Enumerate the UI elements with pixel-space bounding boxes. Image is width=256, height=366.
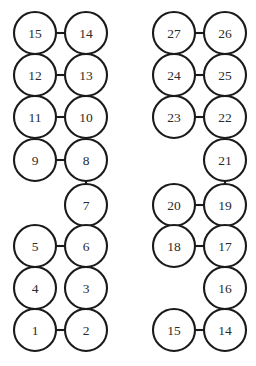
nodes-layer: 1514121311109875643122726242523222120191… bbox=[14, 12, 246, 351]
node-label-17: 17 bbox=[218, 239, 232, 254]
node-label-19: 19 bbox=[218, 198, 232, 213]
node-11[interactable]: 11 bbox=[14, 96, 56, 138]
node-15[interactable]: 15 bbox=[153, 309, 195, 351]
node-7[interactable]: 7 bbox=[65, 184, 107, 226]
node-17[interactable]: 17 bbox=[204, 225, 246, 267]
node-15[interactable]: 15 bbox=[14, 12, 56, 54]
node-label-12: 12 bbox=[28, 68, 42, 83]
node-23[interactable]: 23 bbox=[153, 96, 195, 138]
node-2[interactable]: 2 bbox=[65, 309, 107, 351]
node-label-11: 11 bbox=[29, 110, 42, 125]
node-4[interactable]: 4 bbox=[14, 267, 56, 309]
diagram-root: 1514121311109875643122726242523222120191… bbox=[0, 0, 256, 366]
node-label-21: 21 bbox=[218, 153, 232, 168]
node-label-15: 15 bbox=[28, 26, 42, 41]
node-19[interactable]: 19 bbox=[204, 184, 246, 226]
node-14[interactable]: 14 bbox=[65, 12, 107, 54]
node-27[interactable]: 27 bbox=[153, 12, 195, 54]
node-12[interactable]: 12 bbox=[14, 54, 56, 96]
node-label-6: 6 bbox=[83, 239, 90, 254]
node-3[interactable]: 3 bbox=[65, 267, 107, 309]
right-graph-nodes: 2726242523222120191817161514 bbox=[153, 12, 246, 351]
graph-canvas: 1514121311109875643122726242523222120191… bbox=[0, 0, 256, 366]
node-6[interactable]: 6 bbox=[65, 225, 107, 267]
node-20[interactable]: 20 bbox=[153, 184, 195, 226]
node-label-26: 26 bbox=[218, 26, 232, 41]
node-label-2: 2 bbox=[83, 323, 90, 338]
node-label-23: 23 bbox=[167, 110, 181, 125]
node-label-18: 18 bbox=[167, 239, 181, 254]
node-21[interactable]: 21 bbox=[204, 139, 246, 181]
node-22[interactable]: 22 bbox=[204, 96, 246, 138]
edges-layer bbox=[35, 33, 225, 330]
node-label-5: 5 bbox=[32, 239, 39, 254]
node-label-3: 3 bbox=[83, 281, 90, 296]
node-label-10: 10 bbox=[79, 110, 93, 125]
node-label-16: 16 bbox=[218, 281, 232, 296]
node-26[interactable]: 26 bbox=[204, 12, 246, 54]
node-25[interactable]: 25 bbox=[204, 54, 246, 96]
left-graph-nodes: 151412131110987564312 bbox=[14, 12, 107, 351]
node-label-14: 14 bbox=[79, 26, 93, 41]
node-label-15: 15 bbox=[167, 323, 181, 338]
node-label-4: 4 bbox=[32, 281, 39, 296]
node-label-27: 27 bbox=[167, 26, 181, 41]
node-label-1: 1 bbox=[32, 323, 39, 338]
node-10[interactable]: 10 bbox=[65, 96, 107, 138]
node-label-13: 13 bbox=[79, 68, 93, 83]
node-label-22: 22 bbox=[218, 110, 232, 125]
node-label-20: 20 bbox=[167, 198, 181, 213]
node-label-24: 24 bbox=[167, 68, 181, 83]
node-label-7: 7 bbox=[83, 198, 90, 213]
node-18[interactable]: 18 bbox=[153, 225, 195, 267]
node-1[interactable]: 1 bbox=[14, 309, 56, 351]
node-label-8: 8 bbox=[83, 153, 90, 168]
node-16[interactable]: 16 bbox=[204, 267, 246, 309]
node-8[interactable]: 8 bbox=[65, 139, 107, 181]
node-9[interactable]: 9 bbox=[14, 139, 56, 181]
node-24[interactable]: 24 bbox=[153, 54, 195, 96]
node-14[interactable]: 14 bbox=[204, 309, 246, 351]
node-label-9: 9 bbox=[32, 153, 39, 168]
node-13[interactable]: 13 bbox=[65, 54, 107, 96]
node-5[interactable]: 5 bbox=[14, 225, 56, 267]
node-label-14: 14 bbox=[218, 323, 232, 338]
node-label-25: 25 bbox=[218, 68, 232, 83]
